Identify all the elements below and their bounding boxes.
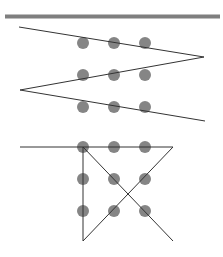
dot (108, 205, 120, 217)
diagram-canvas (0, 0, 223, 257)
dot (139, 173, 151, 185)
dot (108, 101, 120, 113)
dot (77, 37, 89, 49)
nine-dots-diagram (0, 0, 223, 257)
dot (77, 101, 89, 113)
four-line-puzzle (20, 141, 173, 241)
zigzag-puzzle (19, 27, 205, 121)
dot (108, 69, 120, 81)
dot (139, 69, 151, 81)
solution-path (20, 147, 173, 241)
